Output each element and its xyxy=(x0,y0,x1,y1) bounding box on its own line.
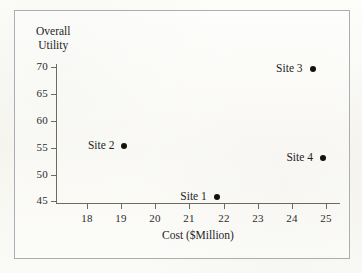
y-axis-line xyxy=(56,64,57,204)
y-tick-label-text: 50 xyxy=(26,168,48,180)
data-point-label: Site 2 xyxy=(88,139,121,151)
x-tick-label: 24 xyxy=(280,212,304,224)
y-tick-label-text: 70 xyxy=(26,60,48,72)
data-point-label: Site 1 xyxy=(180,190,213,202)
y-tick-label: 60 xyxy=(24,114,48,126)
x-tick-mark xyxy=(121,203,122,209)
data-point-label: Site 3 xyxy=(276,62,309,74)
x-tick-mark xyxy=(326,203,327,209)
y-tick-mark xyxy=(51,94,57,95)
y-tick-label: 70 xyxy=(24,60,48,72)
y-tick-label: 55 xyxy=(24,141,48,153)
x-tick-mark xyxy=(155,203,156,209)
y-tick-label-text: 45 xyxy=(26,194,48,206)
data-point xyxy=(310,66,316,72)
y-tick-label-text: 60 xyxy=(26,114,48,126)
y-axis-title-line-1: Overall xyxy=(36,24,70,38)
x-axis-title: Cost ($Million) xyxy=(56,229,340,241)
x-tick-label: 18 xyxy=(75,212,99,224)
x-tick-mark xyxy=(189,203,190,209)
y-tick-label-text: 55 xyxy=(26,141,48,153)
x-tick-mark xyxy=(258,203,259,209)
x-tick-label: 20 xyxy=(143,212,167,224)
x-tick-label: 25 xyxy=(314,212,338,224)
y-tick-mark xyxy=(51,201,57,202)
x-tick-label: 19 xyxy=(109,212,133,224)
x-tick-label: 21 xyxy=(177,212,201,224)
y-tick-label: 65 xyxy=(24,87,48,99)
x-axis-line xyxy=(56,203,340,204)
x-tick-mark xyxy=(224,203,225,209)
y-tick-mark xyxy=(51,175,57,176)
x-tick-label: 23 xyxy=(246,212,270,224)
y-tick-label: 45 xyxy=(24,194,48,206)
x-tick-mark xyxy=(292,203,293,209)
y-tick-mark xyxy=(51,148,57,149)
y-axis-title-line-2: Utility xyxy=(36,38,70,52)
x-tick-label: 22 xyxy=(212,212,236,224)
data-point-label: Site 4 xyxy=(286,151,319,163)
y-tick-mark xyxy=(51,67,57,68)
y-tick-label: 50 xyxy=(24,168,48,180)
x-tick-mark xyxy=(87,203,88,209)
data-point xyxy=(214,194,220,200)
y-axis-title: Overall Utility xyxy=(36,24,70,52)
y-tick-label-text: 65 xyxy=(26,87,48,99)
scatter-plot-figure: Overall Utility 455055606570 18192021222… xyxy=(0,0,362,273)
y-tick-mark xyxy=(51,121,57,122)
